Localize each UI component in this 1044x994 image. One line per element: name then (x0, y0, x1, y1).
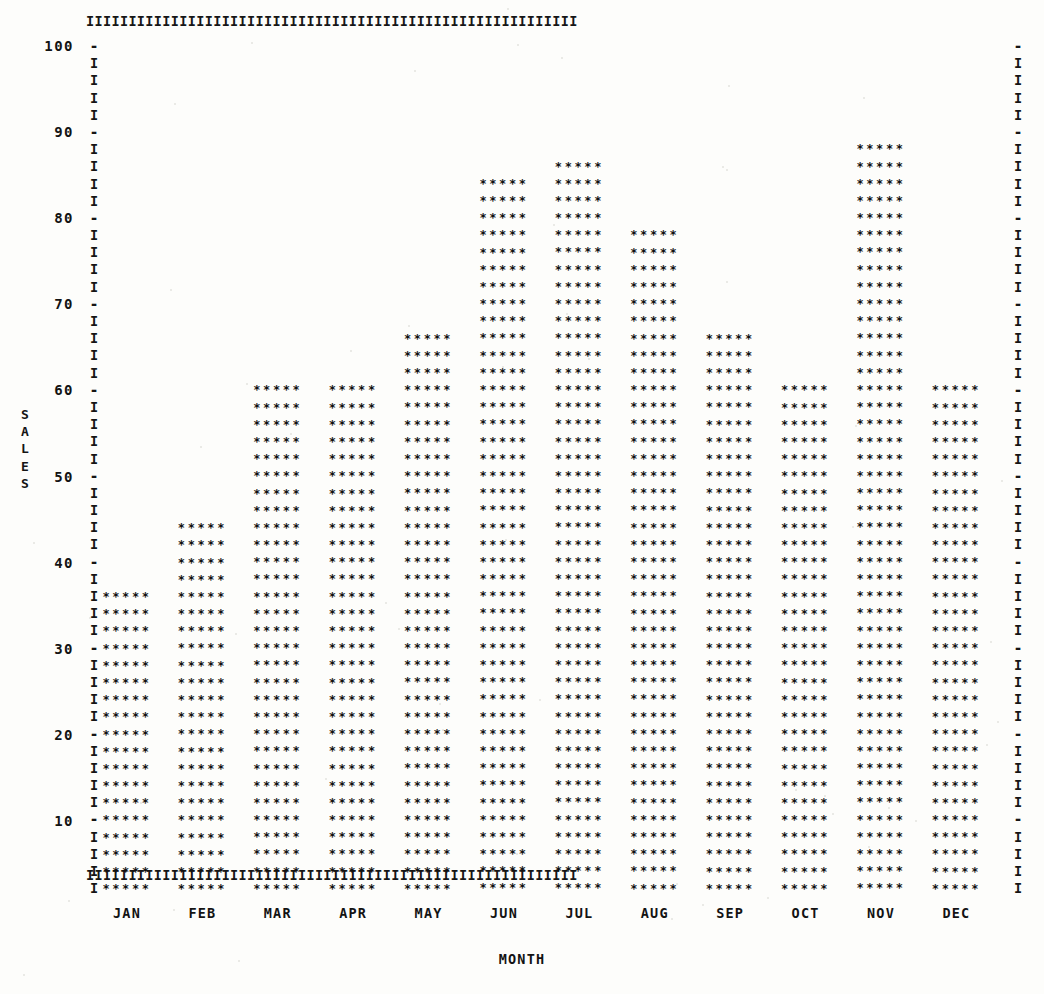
bar-glyph-row: ***** (925, 417, 987, 434)
bar-glyph-row: ***** (398, 864, 460, 881)
bar-glyph-row: ***** (171, 709, 233, 726)
paper-speck (398, 628, 400, 630)
bar: ****************************************… (171, 520, 233, 898)
paper-speck (414, 70, 416, 72)
bar-glyph-row: ***** (96, 692, 158, 709)
bar-glyph-row: ***** (473, 554, 535, 571)
y-axis-tick-label: 20 (28, 728, 74, 742)
bar: ****************************************… (850, 141, 912, 897)
bar-glyph-row: ***** (548, 588, 610, 605)
y-axis-minor-tick: I (86, 72, 102, 89)
bar-glyph-row: ***** (548, 605, 610, 622)
y-axis-major-tick: - (1010, 811, 1026, 828)
y-axis-tick-label: 80 (28, 211, 74, 225)
bar-glyph-row: ***** (850, 709, 912, 726)
paper-speck (863, 97, 865, 99)
bar-glyph-row: ***** (850, 485, 912, 502)
bar-glyph-row: ***** (850, 726, 912, 743)
bar-glyph-row: ***** (171, 864, 233, 881)
bar-glyph-row: ***** (548, 330, 610, 347)
printout-plate: SALES IIIIIIIIIIIIIIIIIIIIIIIIIIIIIIIIII… (0, 0, 1044, 994)
bar-glyph-row: ***** (775, 795, 837, 812)
bar-glyph-row: ***** (850, 399, 912, 416)
y-axis-minor-tick: I (1010, 365, 1026, 382)
y-axis-major-tick: - (86, 210, 102, 227)
bar-glyph-row: ***** (548, 434, 610, 451)
paper-speck (238, 960, 240, 962)
y-axis-tick-label: 70 (28, 297, 74, 311)
bar-glyph-row: ***** (171, 847, 233, 864)
y-axis-minor-tick: I (1010, 90, 1026, 107)
bar-glyph-row: ***** (624, 520, 686, 537)
paper-speck (517, 44, 519, 46)
bar-glyph-row: ***** (247, 417, 309, 434)
bar-glyph-row: ***** (473, 709, 535, 726)
bar-glyph-row: ***** (548, 313, 610, 330)
y-axis-minor-tick: I (86, 90, 102, 107)
bar-glyph-row: ***** (925, 692, 987, 709)
bar-glyph-row: ***** (548, 416, 610, 433)
y-axis-minor-tick: I (86, 502, 102, 519)
bar-glyph-row: ***** (699, 485, 761, 502)
bar-glyph-row: ***** (850, 382, 912, 399)
bar-glyph-row: ***** (247, 657, 309, 674)
bar-glyph-row: ***** (699, 365, 761, 382)
bar-glyph-row: ***** (850, 691, 912, 708)
bar-glyph-row: ***** (850, 502, 912, 519)
bar: ****************************************… (548, 159, 610, 898)
bar-glyph-row: ***** (247, 623, 309, 640)
bar-glyph-row: ***** (850, 863, 912, 880)
y-axis-major-tick: - (1010, 382, 1026, 399)
bar-glyph-row: ***** (322, 726, 384, 743)
bar-glyph-row: ***** (171, 761, 233, 778)
bar-glyph-row: ***** (775, 382, 837, 399)
y-axis-minor-tick: I (86, 193, 102, 210)
bar-glyph-row: ***** (398, 657, 460, 674)
bar-glyph-row: ***** (850, 571, 912, 588)
bar: ****************************************… (624, 227, 686, 897)
bar-glyph-row: ***** (548, 760, 610, 777)
bar-glyph-row: ***** (548, 846, 610, 863)
y-axis-minor-tick: I (1010, 244, 1026, 261)
bar-glyph-row: ***** (925, 400, 987, 417)
bar-glyph-row: ***** (322, 537, 384, 554)
paper-speck (671, 918, 673, 920)
bar-glyph-row: ***** (775, 537, 837, 554)
bar-glyph-row: ***** (624, 743, 686, 760)
bar-glyph-row: ***** (925, 571, 987, 588)
bar-glyph-row: ***** (925, 640, 987, 657)
bar-glyph-row: ***** (473, 451, 535, 468)
bar-glyph-row: ***** (850, 176, 912, 193)
bar-glyph-row: ***** (775, 778, 837, 795)
y-axis-minor-tick: I (1010, 846, 1026, 863)
y-axis-minor-tick: I (1010, 760, 1026, 777)
bar-glyph-row: ***** (850, 193, 912, 210)
y-axis-tick-label: 90 (28, 125, 74, 139)
y-axis-minor-tick: I (1010, 313, 1026, 330)
bar-glyph-row: ***** (96, 623, 158, 640)
bar-glyph-row: ***** (850, 434, 912, 451)
bar-glyph-row: ***** (850, 330, 912, 347)
bar-glyph-row: ***** (699, 399, 761, 416)
bar-glyph-row: ***** (624, 760, 686, 777)
bar-glyph-row: ***** (548, 485, 610, 502)
bar-glyph-row: ***** (473, 296, 535, 313)
bar-glyph-row: ***** (96, 744, 158, 761)
bar-glyph-row: ***** (247, 795, 309, 812)
bar-glyph-row: ***** (322, 554, 384, 571)
bar-glyph-row: ***** (925, 864, 987, 881)
bar-glyph-row: ***** (322, 675, 384, 692)
bar-glyph-row: ***** (171, 812, 233, 829)
bar-glyph-row: ***** (473, 210, 535, 227)
y-axis-minor-tick: I (86, 55, 102, 72)
bar-glyph-row: ***** (548, 296, 610, 313)
paper-speck (174, 103, 176, 105)
y-axis-minor-tick: I (86, 519, 102, 536)
bar-glyph-row: ***** (624, 709, 686, 726)
bar-glyph-row: ***** (473, 760, 535, 777)
y-axis-major-tick: - (86, 296, 102, 313)
bar-glyph-row: ***** (624, 485, 686, 502)
y-axis-major-tick: - (1010, 468, 1026, 485)
bar-glyph-row: ***** (96, 675, 158, 692)
y-axis-minor-tick: I (86, 433, 102, 450)
